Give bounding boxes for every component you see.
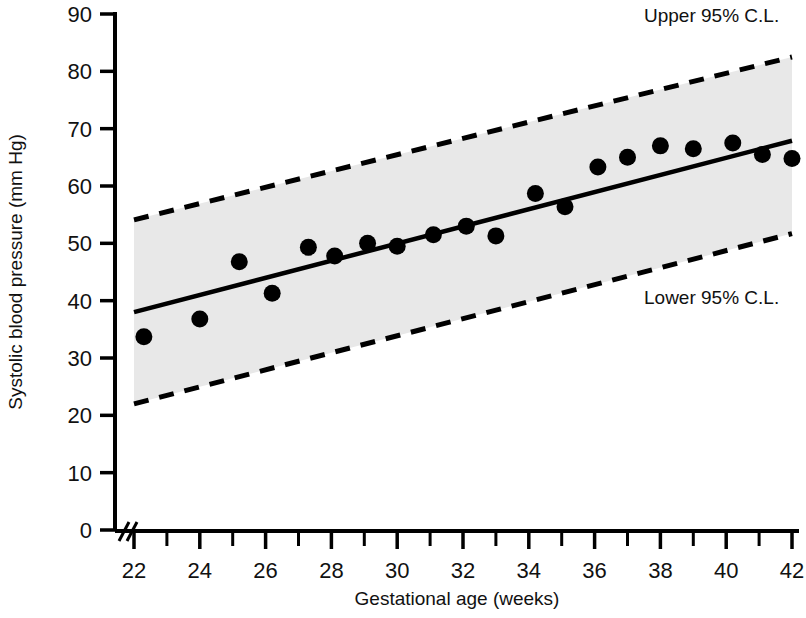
- data-point: [135, 328, 152, 345]
- y-axis-title: Systolic blood pressure (mm Hg): [5, 134, 26, 410]
- data-point: [724, 135, 741, 152]
- data-point: [326, 247, 343, 264]
- data-point: [300, 239, 317, 256]
- data-point: [556, 198, 573, 215]
- data-point: [264, 285, 281, 302]
- y-axis-tick-label: 80: [68, 59, 92, 84]
- data-point: [359, 235, 376, 252]
- y-axis-tick-label: 40: [68, 289, 92, 314]
- data-point: [527, 185, 544, 202]
- x-axis-tick-label: 24: [188, 558, 212, 583]
- data-point: [589, 159, 606, 176]
- data-point: [784, 150, 801, 167]
- x-axis-tick-label: 34: [517, 558, 541, 583]
- x-axis-tick-label: 40: [714, 558, 738, 583]
- data-point: [389, 238, 406, 255]
- x-axis-tick-label: 36: [582, 558, 606, 583]
- data-point: [685, 140, 702, 157]
- y-axis-tick-label: 90: [68, 2, 92, 27]
- data-point: [458, 218, 475, 235]
- x-axis-tick-label: 22: [122, 558, 146, 583]
- data-point: [425, 226, 442, 243]
- x-axis-tick-label: 42: [780, 558, 804, 583]
- upper-confidence-limit-label: Upper 95% C.L.: [644, 5, 779, 26]
- x-axis-tick-label: 32: [451, 558, 475, 583]
- x-axis-title: Gestational age (weeks): [355, 588, 560, 609]
- data-point: [487, 227, 504, 244]
- data-point: [619, 149, 636, 166]
- data-point: [652, 137, 669, 154]
- x-axis-tick-label: 26: [253, 558, 277, 583]
- lower-confidence-limit-label: Lower 95% C.L.: [644, 287, 779, 308]
- chart-figure: 0102030405060708090 22242628303234363840…: [0, 0, 806, 618]
- y-axis-tick-label: 50: [68, 231, 92, 256]
- x-axis-tick-label: 28: [319, 558, 343, 583]
- data-point: [231, 253, 248, 270]
- scatter-plot: 0102030405060708090 22242628303234363840…: [0, 0, 806, 618]
- x-axis-tick-label: 38: [648, 558, 672, 583]
- y-axis-tick-label: 30: [68, 346, 92, 371]
- y-axis-tick-label: 60: [68, 174, 92, 199]
- x-axis-tick-label: 30: [385, 558, 409, 583]
- y-axis-tick-label: 10: [68, 461, 92, 486]
- y-axis-tick-label: 70: [68, 117, 92, 142]
- data-point: [191, 311, 208, 328]
- data-point: [754, 146, 771, 163]
- y-axis-tick-label: 0: [80, 518, 92, 543]
- y-axis-tick-label: 20: [68, 403, 92, 428]
